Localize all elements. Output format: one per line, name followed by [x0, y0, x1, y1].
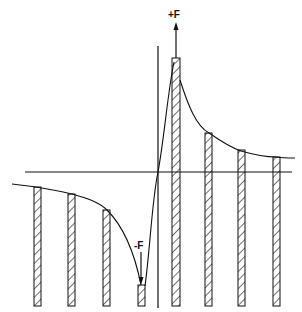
bar-2 — [68, 194, 75, 306]
minus-force-label: -F — [134, 240, 143, 251]
plus-force-label: +F — [168, 9, 180, 20]
bar-5-max — [172, 58, 180, 306]
right-envelope-curve — [180, 80, 295, 158]
plus-force-arrow — [174, 22, 179, 58]
bar-8 — [273, 157, 280, 306]
left-envelope-curve — [12, 184, 141, 285]
bar-1 — [34, 187, 41, 306]
force-distribution-diagram: +F -F — [0, 0, 302, 312]
center-transition-curve — [145, 62, 174, 286]
bar-7 — [238, 150, 245, 306]
bar-6 — [205, 133, 212, 306]
hatched-bars — [34, 58, 280, 306]
bar-4-min — [138, 285, 145, 306]
minus-force-arrow — [139, 252, 144, 285]
bar-3 — [103, 210, 110, 306]
